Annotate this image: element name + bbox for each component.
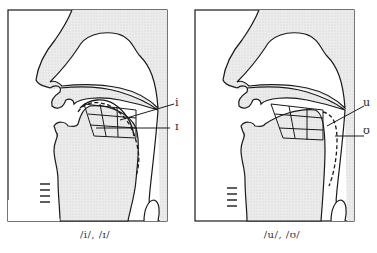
panel-front-vowels: i ɪ /i/, /ɪ/ — [0, 0, 190, 253]
vocal-tract-diagram-back — [187, 0, 377, 253]
label-vowel-lax-i: ɪ — [175, 120, 179, 133]
vocal-tract-diagram-front — [0, 0, 190, 253]
caption-back-vowels: /u/, /ʊ/ — [187, 229, 377, 240]
caption-front-vowels: /i/, /ɪ/ — [0, 229, 190, 240]
label-vowel-upsilon: ʊ — [363, 124, 370, 137]
label-vowel-i: i — [175, 96, 179, 109]
label-vowel-u: u — [363, 96, 370, 109]
panel-back-vowels: u ʊ /u/, /ʊ/ — [187, 0, 377, 253]
